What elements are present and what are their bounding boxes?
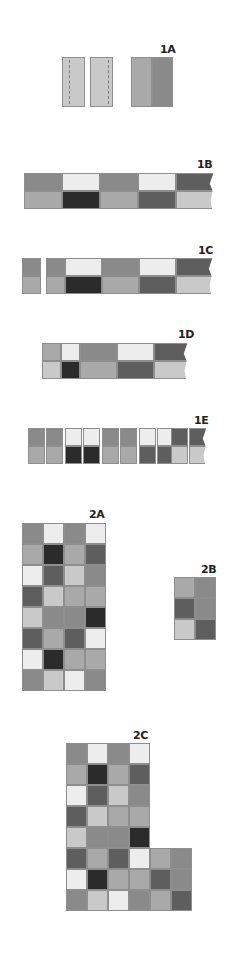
strip-patch-bottom <box>117 361 154 379</box>
block-patch <box>85 628 106 649</box>
segment-patch-top <box>139 428 156 446</box>
block-patch <box>108 806 129 827</box>
block-patch <box>85 565 106 586</box>
block-patch <box>108 764 129 785</box>
block-patch <box>87 785 108 806</box>
fabric-strip <box>62 57 85 107</box>
segment-patch-bottom <box>102 446 119 464</box>
block-patch <box>64 607 85 628</box>
block-patch <box>22 628 43 649</box>
block-patch <box>129 764 150 785</box>
strip-patch-bottom <box>138 191 176 209</box>
block-patch <box>150 869 171 890</box>
seam-line <box>69 60 70 104</box>
block-patch <box>129 890 150 911</box>
strip-patch-bottom <box>80 361 117 379</box>
segment-patch-bottom <box>139 446 156 464</box>
block-patch <box>43 586 64 607</box>
strip-patch-bottom <box>62 191 100 209</box>
block-patch <box>22 607 43 628</box>
block-patch <box>129 806 150 827</box>
strip-patch-top <box>176 173 214 191</box>
block-patch <box>129 848 150 869</box>
fabric-strip <box>131 57 152 107</box>
strip-patch-top <box>61 343 80 361</box>
strip-patch-bottom <box>139 276 176 294</box>
segment-patch-top <box>102 428 119 446</box>
block-patch <box>43 607 64 628</box>
strip-patch-bottom <box>100 191 138 209</box>
block-patch <box>108 890 129 911</box>
segment-patch-top <box>120 428 137 446</box>
block-patch <box>129 827 150 848</box>
segment-patch-bottom <box>65 446 82 464</box>
block-patch <box>87 890 108 911</box>
strip-patch-top <box>42 343 61 361</box>
block-patch <box>195 598 216 619</box>
segment-patch-bottom <box>28 446 45 464</box>
block-patch <box>174 577 195 598</box>
strip-patch-top <box>102 258 139 276</box>
block-patch <box>87 827 108 848</box>
step-label-1b: 1B <box>197 158 212 171</box>
strip-patch-top <box>65 258 102 276</box>
block-patch <box>22 544 43 565</box>
step-label-1a: 1A <box>160 43 176 56</box>
block-patch <box>87 806 108 827</box>
block-patch <box>129 785 150 806</box>
block-patch <box>171 869 192 890</box>
fabric-strip <box>90 57 113 107</box>
block-patch <box>64 544 85 565</box>
block-patch <box>87 743 108 764</box>
step-label-1d: 1D <box>178 328 194 341</box>
block-patch <box>174 619 195 640</box>
seam-line <box>108 60 109 104</box>
block-patch <box>195 619 216 640</box>
segment-patch-bottom <box>46 446 63 464</box>
block-patch <box>64 649 85 670</box>
block-patch <box>64 565 85 586</box>
block-patch <box>64 586 85 607</box>
step-label-1c: 1C <box>198 244 213 257</box>
block-patch <box>108 827 129 848</box>
block-patch <box>66 890 87 911</box>
block-patch <box>22 523 43 544</box>
strip-patch-bottom <box>24 191 62 209</box>
strip-patch-bottom <box>61 361 80 379</box>
block-patch <box>43 565 64 586</box>
block-patch <box>64 523 85 544</box>
block-patch <box>22 670 43 691</box>
step-label-2a: 2A <box>89 508 105 521</box>
strip-patch-top <box>139 258 176 276</box>
block-patch <box>43 523 64 544</box>
block-patch <box>22 649 43 670</box>
step-label-2b: 2B <box>201 563 216 576</box>
block-patch <box>64 670 85 691</box>
strip-patch-top <box>24 173 62 191</box>
block-patch <box>174 598 195 619</box>
strip-patch-top <box>117 343 154 361</box>
segment-patch-bottom <box>83 446 100 464</box>
strip-patch-top <box>80 343 117 361</box>
strip-patch-bottom <box>42 361 61 379</box>
segment-patch-top <box>46 258 65 276</box>
strip-patch-top <box>154 343 188 361</box>
block-patch <box>66 743 87 764</box>
segment-patch-bottom <box>46 276 65 294</box>
step-label-2c: 2C <box>133 729 148 742</box>
block-patch <box>171 848 192 869</box>
block-patch <box>87 869 108 890</box>
block-patch <box>85 586 106 607</box>
strip-patch-bottom <box>176 276 213 294</box>
strip-patch-top <box>176 258 213 276</box>
segment-patch-top <box>46 428 63 446</box>
block-patch <box>129 743 150 764</box>
segment-patch-bottom <box>171 446 188 464</box>
strip-patch-top <box>138 173 176 191</box>
strip-patch-bottom <box>176 191 214 209</box>
block-patch <box>66 764 87 785</box>
block-patch <box>66 806 87 827</box>
strip-patch-bottom <box>102 276 139 294</box>
block-patch <box>22 586 43 607</box>
block-patch <box>85 607 106 628</box>
